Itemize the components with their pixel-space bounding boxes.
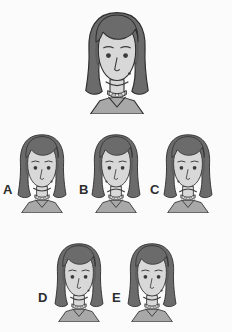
option-label-c[interactable]: C [150, 183, 159, 196]
option-label-e[interactable]: E [112, 291, 121, 304]
option-e[interactable] [122, 240, 182, 322]
option-label-b[interactable]: B [79, 183, 88, 196]
option-d[interactable] [49, 240, 109, 322]
option-a[interactable] [12, 131, 72, 213]
option-label-d[interactable]: D [38, 291, 47, 304]
puzzle-canvas: A B C [0, 0, 232, 332]
option-label-a[interactable]: A [3, 183, 12, 196]
option-b[interactable] [86, 131, 146, 213]
option-c[interactable] [158, 131, 218, 213]
target-face [76, 8, 158, 114]
